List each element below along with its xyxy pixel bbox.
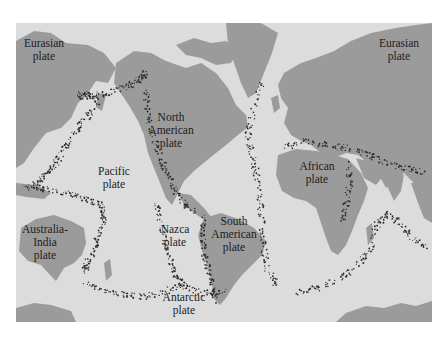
label-south-american-plate: South American plate (211, 215, 256, 254)
label-north-american-plate: North American plate (148, 111, 193, 150)
label-eurasian-plate-east: Eurasian plate (379, 37, 419, 63)
label-antarctic-plate: Antarctic plate (163, 291, 206, 317)
label-nazca-plate: Nazca plate (161, 223, 190, 249)
label-pacific-plate: Pacific plate (98, 165, 130, 191)
label-australia-india-plate: Australia- India plate (22, 223, 68, 262)
label-eurasian-plate-west: Eurasian plate (24, 37, 64, 63)
earthquake-plate-map: Eurasian plate Eurasian plate North Amer… (16, 23, 432, 322)
world-map-graphic (16, 23, 432, 322)
label-african-plate: African plate (299, 160, 334, 186)
